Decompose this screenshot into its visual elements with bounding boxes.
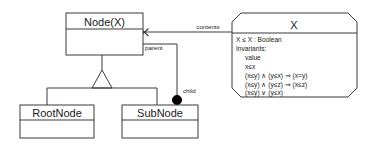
association-label-contents: contents xyxy=(196,23,219,30)
parameter-box-invariant-4: (x≤y) ∨ (y≤x) xyxy=(245,89,283,97)
parent-child-line xyxy=(143,44,177,100)
parameter-box-title: X xyxy=(290,19,298,31)
parameter-box-signature: X ≤ X : Boolean xyxy=(236,36,282,43)
uml-class-diagram: Node(X) RootNode SubNode contents parent… xyxy=(0,0,368,147)
class-node-x-name: Node(X) xyxy=(84,16,125,28)
association-label-child: child xyxy=(183,87,196,94)
class-box-rootnode[interactable]: RootNode xyxy=(20,105,94,138)
hollow-triangle-icon xyxy=(92,70,112,88)
diagram-canvas: Node(X) RootNode SubNode contents parent… xyxy=(0,0,368,147)
composition-dot-icon xyxy=(172,95,181,104)
class-box-node-x[interactable]: Node(X) xyxy=(66,13,143,55)
parameter-box-invariant-2: (x≤y) ∧ (y≤x) ⇒ (x=y) xyxy=(245,72,307,80)
parameter-box-invariant-1: x≤x xyxy=(245,63,256,70)
class-rootnode-name: RootNode xyxy=(32,107,82,119)
association-label-parent: parent xyxy=(145,44,163,51)
generalization-relation[interactable] xyxy=(47,55,157,105)
parameter-box-x[interactable]: X X ≤ X : Boolean Invariants: value x≤x … xyxy=(232,13,357,97)
parameter-box-invariant-0: value xyxy=(245,54,261,61)
association-parent-child[interactable] xyxy=(143,44,182,105)
parameter-box-invariant-3: (x≤y) ∧ (y≤z) ⇒ (x≤z) xyxy=(245,81,307,89)
class-subnode-name: SubNode xyxy=(137,107,183,119)
class-box-subnode[interactable]: SubNode xyxy=(122,105,198,138)
parameter-box-invariants-label: Invariants: xyxy=(236,45,267,52)
